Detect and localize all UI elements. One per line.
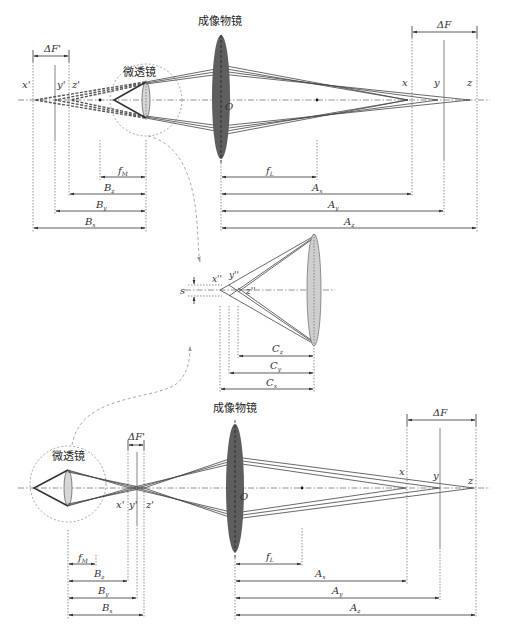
svg-text:ΔF': ΔF'	[43, 43, 61, 54]
left-dimensions: fM Bz By Bx	[34, 165, 145, 228]
svg-text:Bz: Bz	[103, 182, 115, 194]
bottom-microlens	[64, 470, 72, 506]
svg-text:fL: fL	[265, 551, 274, 563]
bottom-delta-f-dim: ΔF	[407, 407, 476, 426]
svg-text:y': y'	[56, 79, 65, 90]
svg-text:x': x'	[116, 499, 124, 510]
svg-text:z: z	[466, 77, 473, 88]
svg-text:O: O	[225, 101, 233, 112]
svg-text:y'': y''	[228, 270, 239, 280]
svg-text:Ax: Ax	[314, 568, 326, 580]
objective-label: 成像物镜	[198, 14, 242, 28]
svg-text:fM: fM	[77, 552, 89, 564]
svg-text:ΔF: ΔF	[436, 19, 452, 30]
svg-text:Az: Az	[349, 602, 361, 614]
svg-text:O: O	[240, 491, 248, 502]
middle-dimensions: Cz Cy Cx	[221, 343, 313, 389]
svg-text:s: s	[180, 285, 185, 296]
svg-text:fL: fL	[265, 165, 274, 177]
svg-text:Ax: Ax	[311, 182, 323, 194]
svg-text:Cz: Cz	[272, 343, 284, 355]
svg-text:y': y'	[128, 499, 137, 510]
right-dimensions: fL Ax Ay Az	[222, 165, 476, 228]
svg-text:ΔF': ΔF'	[127, 431, 145, 442]
svg-text:x': x'	[22, 79, 30, 90]
svg-text:x: x	[402, 77, 408, 88]
svg-text:Cy: Cy	[270, 360, 282, 373]
microlens-enlarged	[307, 234, 321, 346]
top-panel: ΔF' x' y' z' 微透镜 成像物镜	[18, 14, 490, 262]
bottom-objective-label: 成像物镜	[213, 401, 257, 415]
svg-text:z'': z''	[245, 286, 256, 296]
svg-text:Ay: Ay	[331, 585, 343, 598]
svg-text:Bx: Bx	[84, 216, 96, 228]
svg-text:x'': x''	[212, 274, 222, 284]
svg-text:Bx: Bx	[101, 602, 113, 614]
svg-text:Ay: Ay	[327, 199, 339, 212]
svg-text:x: x	[399, 466, 405, 477]
svg-text:By: By	[97, 585, 109, 598]
optical-diagram: ΔF' x' y' z' 微透镜 成像物镜	[0, 0, 505, 636]
svg-text:z': z'	[145, 499, 154, 510]
svg-text:Az: Az	[343, 216, 355, 228]
delta-f-prime-dim: ΔF'	[33, 43, 69, 62]
svg-text:z': z'	[71, 79, 80, 90]
bottom-right-dimensions: fL Ax Ay Az	[236, 551, 475, 615]
bottom-microlens-label: 微透镜	[52, 449, 85, 463]
svg-text:ΔF: ΔF	[432, 407, 448, 418]
svg-text:Bz: Bz	[93, 568, 105, 580]
microlens-label: 微透镜	[123, 65, 156, 79]
svg-text:z: z	[467, 475, 474, 486]
svg-text:Cx: Cx	[266, 377, 278, 389]
bottom-delta-f-prime-dim: ΔF'	[127, 431, 145, 450]
svg-text:By: By	[95, 199, 107, 212]
middle-panel: s x'' y'' z'' Cz Cy Cx	[72, 234, 335, 445]
bottom-panel: 微透镜 ΔF'	[18, 401, 490, 620]
delta-f-dim: ΔF	[412, 19, 477, 38]
zoom-link-top	[148, 136, 200, 262]
svg-text:y: y	[433, 77, 440, 88]
svg-text:y: y	[432, 470, 439, 481]
bottom-left-dimensions: fM Bz By Bx	[69, 552, 143, 615]
svg-text:fM: fM	[117, 165, 129, 177]
